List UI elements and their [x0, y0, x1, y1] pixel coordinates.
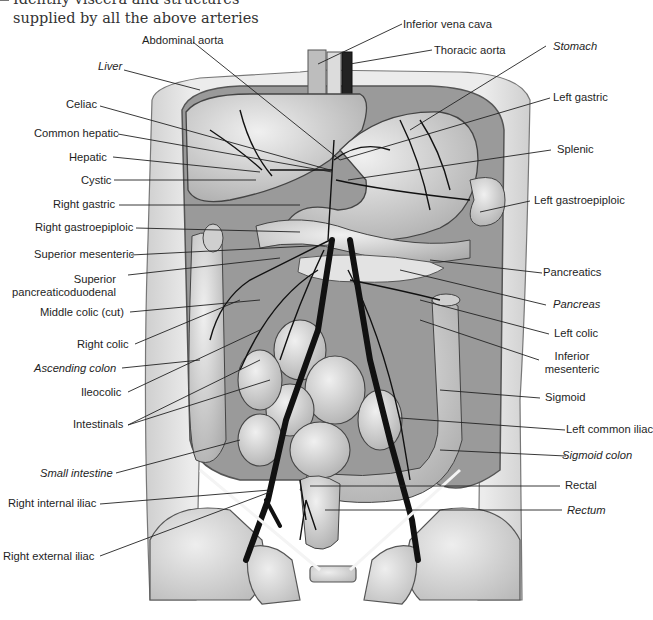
label-left-common-iliac: Left common iliac — [566, 423, 653, 436]
label-stomach: Stomach — [553, 40, 597, 53]
label-celiac: Celiac — [66, 98, 97, 111]
spleen — [470, 178, 505, 227]
label-small-intestine: Small intestine — [40, 467, 113, 480]
label-superior-pancreaticoduodenal-line1: Superior — [12, 273, 116, 286]
label-left-gastroepiploic: Left gastroepiploic — [534, 194, 625, 207]
label-right-internal-iliac: Right internal iliac — [8, 497, 96, 510]
label-left-gastric: Left gastric — [553, 91, 608, 104]
label-inferior-vena-cava: Inferior vena cava — [403, 18, 492, 31]
label-thoracic-aorta: Thoracic aorta — [434, 44, 506, 57]
label-inferior-mesenteric-line2: mesenteric — [540, 363, 604, 376]
label-liver: Liver — [98, 60, 122, 73]
label-superior-mesenteric: Superior mesenteric — [34, 248, 134, 261]
label-sigmoid-colon: Sigmoid colon — [562, 449, 632, 462]
label-left-colic: Left colic — [554, 327, 598, 340]
label-right-gastroepiploic: Right gastroepiploic — [35, 221, 133, 234]
label-splenic: Splenic — [557, 143, 594, 156]
label-rectal: Rectal — [565, 479, 597, 492]
label-middle-colic: Middle colic (cut) — [40, 306, 124, 319]
rectum — [300, 476, 340, 549]
label-superior-pancreaticoduodenal-line2: pancreaticoduodenal — [12, 286, 116, 299]
label-superior-pancreaticoduodenal: Superior pancreaticoduodenal — [12, 273, 116, 299]
label-inferior-mesenteric: Inferior mesenteric — [540, 350, 604, 376]
label-cystic: Cystic — [81, 174, 111, 187]
label-common-hepatic: Common hepatic — [34, 127, 119, 140]
label-ascending-colon: Ascending colon — [34, 362, 116, 375]
label-intestinals: Intestinals — [73, 418, 123, 431]
label-rectum: Rectum — [567, 504, 606, 517]
colon-cut-end-right — [203, 224, 223, 252]
label-abdominal-aorta: Abdominal aorta — [142, 34, 223, 47]
label-ileocolic: Ileocolic — [81, 386, 121, 399]
label-hepatic: Hepatic — [69, 151, 107, 164]
label-inferior-mesenteric-line1: Inferior — [540, 350, 604, 363]
label-right-colic: Right colic — [77, 338, 129, 351]
label-right-external-iliac: Right external iliac — [3, 550, 94, 563]
thoracic-aorta — [342, 52, 352, 96]
label-pancreas: Pancreas — [553, 298, 600, 311]
inferior-vena-cava — [308, 50, 326, 96]
label-pancreatics: Pancreatics — [543, 266, 601, 279]
label-sigmoid: Sigmoid — [545, 391, 585, 404]
label-right-gastric: Right gastric — [53, 198, 115, 211]
